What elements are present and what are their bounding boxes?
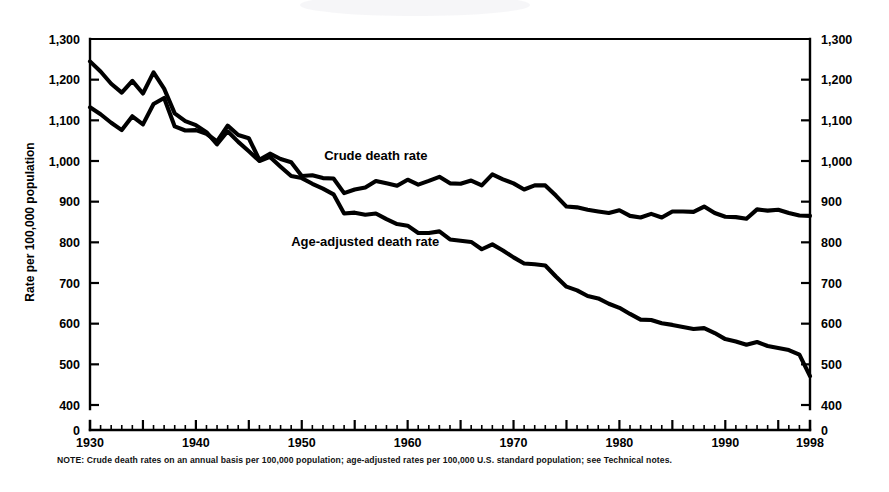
chart-text-label: 1960: [394, 436, 422, 450]
chart-text-label: 1,200: [49, 73, 80, 87]
chart-text-label: 800: [59, 236, 80, 250]
chart-text-label: 1950: [288, 436, 316, 450]
chart-text-label: 500: [59, 358, 80, 372]
labels-layer: 4004005005006006007007008008009009001,00…: [23, 33, 852, 451]
chart-text-label: 1998: [796, 436, 824, 450]
chart-text-label: 800: [821, 236, 842, 250]
death-rate-chart-figure: 4004005005006006007007008008009009001,00…: [0, 0, 889, 492]
chart-footnote: NOTE: Crude death rates on an annual bas…: [57, 455, 857, 465]
line-chart-canvas: 4004005005006006007007008008009009001,00…: [0, 0, 889, 492]
chart-text-label: 1930: [76, 436, 104, 450]
chart-text-label: 1,100: [49, 114, 80, 128]
chart-text-label: 900: [821, 195, 842, 209]
series-line-age-adjusted-death-rate: [90, 61, 810, 376]
chart-text-label: 1,000: [49, 155, 80, 169]
chart-text-label: 900: [59, 195, 80, 209]
chart-text-label: 400: [59, 399, 80, 413]
chart-text-label: 700: [59, 277, 80, 291]
chart-text-label: 600: [59, 317, 80, 331]
series-line-crude-death-rate: [90, 98, 810, 219]
chart-text-label: 600: [821, 317, 842, 331]
chart-text-label: 1,300: [821, 33, 852, 47]
chart-text-label: 1,200: [821, 73, 852, 87]
chart-text-label: 1980: [606, 436, 634, 450]
chart-text-label: 1970: [500, 436, 528, 450]
chart-text-label: 1940: [182, 436, 210, 450]
chart-text-label: 400: [821, 399, 842, 413]
chart-text-label: Crude death rate: [324, 148, 427, 163]
chart-text-label: 1,000: [821, 155, 852, 169]
chart-text-label: Rate per 100,000 population: [23, 142, 37, 301]
series-layer: [90, 61, 810, 376]
chart-text-label: 1,300: [49, 33, 80, 47]
chart-text-label: Age-adjusted death rate: [291, 234, 439, 249]
chart-text-label: 1990: [711, 436, 739, 450]
chart-text-label: 500: [821, 358, 842, 372]
chart-text-label: 1,100: [821, 114, 852, 128]
axes-layer: [90, 39, 810, 430]
chart-text-label: 700: [821, 277, 842, 291]
